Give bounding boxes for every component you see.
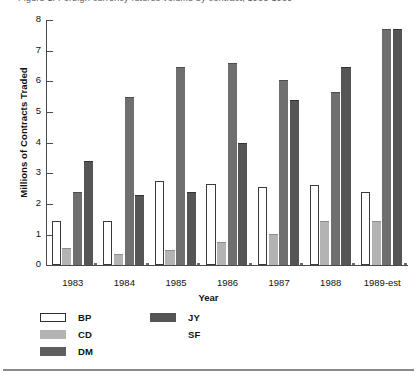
x-tick-label: 1984 [99, 277, 151, 288]
clipped-caption-strip: Figure 1. Foreign currency futures volum… [0, 0, 417, 9]
bar-jy-1985 [187, 192, 196, 266]
bar-sf-1986 [249, 263, 252, 265]
bar-group [305, 20, 357, 265]
y-tick-0: 0 [46, 265, 53, 266]
bar-cd-1988 [320, 221, 329, 265]
x-tick-labels: 1983198419851986198719881989-est [47, 277, 408, 288]
bars [202, 20, 254, 265]
bars [305, 20, 357, 265]
bar-dm-1988 [331, 92, 340, 265]
bars [47, 20, 99, 265]
caption-text: Figure 1. Foreign currency futures volum… [18, 0, 292, 3]
y-axis-label: Millions of Contracts Traded [18, 38, 29, 228]
legend-label: DM [78, 346, 93, 357]
bar-dm-1984 [125, 97, 134, 265]
legend-item-jy[interactable]: JY [150, 312, 201, 323]
x-axis-label: Year [0, 292, 417, 303]
bars [253, 20, 305, 265]
legend-column-1: BPCDDM [40, 312, 150, 357]
x-tick-label: 1983 [47, 277, 99, 288]
plot-area: Millions of Contracts Traded 8 7 6 5 [0, 9, 417, 299]
bar-cd-1986 [217, 242, 226, 265]
legend-label: BP [78, 312, 92, 323]
legend-swatch-icon-dm [40, 347, 66, 356]
bar-sf-1989-est [404, 263, 407, 265]
bar-bp-1985 [155, 181, 164, 265]
bar-sf-1985 [197, 263, 200, 265]
x-tick-label: 1985 [150, 277, 202, 288]
bar-dm-1989-est [382, 29, 391, 265]
bar-jy-1987 [290, 100, 299, 265]
bar-cd-1989-est [372, 221, 381, 265]
bar-cd-1984 [114, 254, 123, 265]
bar-sf-1988 [352, 263, 355, 265]
bar-sf-1984 [146, 263, 149, 265]
bars [150, 20, 202, 265]
x-tick-label: 1988 [305, 277, 357, 288]
bar-jy-1984 [135, 195, 144, 265]
bars [99, 20, 151, 265]
legend-item-cd[interactable]: CD [40, 329, 150, 340]
x-tick-label: 1986 [202, 277, 254, 288]
bar-jy-1988 [341, 67, 350, 265]
legend-swatch-icon-bp [40, 313, 66, 322]
bar-bp-1989-est [361, 192, 370, 266]
x-axis-line [46, 265, 408, 266]
bars [356, 20, 408, 265]
legend-swatch-icon-jy [150, 313, 176, 322]
legend-item-sf[interactable]: SF [150, 329, 201, 340]
bar-sf-1987 [300, 263, 303, 265]
bar-dm-1985 [176, 67, 185, 265]
bar-cd-1985 [165, 250, 174, 265]
bar-groups [47, 20, 408, 265]
bar-dm-1986 [228, 63, 237, 265]
legend-label: CD [78, 329, 92, 340]
bar-group [99, 20, 151, 265]
legend-swatch-icon-sf [150, 330, 176, 339]
legend-label: SF [188, 329, 201, 340]
bar-jy-1983 [84, 161, 93, 265]
legend-label: JY [188, 312, 200, 323]
bar-group [150, 20, 202, 265]
bar-jy-1989-est [393, 29, 402, 265]
legend-item-bp[interactable]: BP [40, 312, 150, 323]
x-tick-label: 1987 [253, 277, 305, 288]
bar-bp-1986 [206, 184, 215, 265]
bar-dm-1987 [279, 80, 288, 265]
bar-group [253, 20, 305, 265]
legend-item-dm[interactable]: DM [40, 346, 150, 357]
legend: BPCDDM JYSF [40, 312, 340, 357]
bar-group [47, 20, 99, 265]
figure-container: Figure 1. Foreign currency futures volum… [0, 0, 417, 376]
axes: 8 7 6 5 4 3 2 [46, 20, 408, 266]
bottom-rule [3, 369, 414, 371]
bar-jy-1986 [238, 143, 247, 266]
bar-bp-1983 [52, 221, 61, 265]
x-tick-label: 1989-est [356, 277, 408, 288]
bar-cd-1983 [62, 248, 71, 265]
bar-group [202, 20, 254, 265]
bar-cd-1987 [269, 234, 278, 265]
legend-column-2: JYSF [150, 312, 201, 357]
bar-bp-1988 [310, 185, 319, 265]
bar-bp-1987 [258, 187, 267, 265]
bar-sf-1983 [94, 263, 97, 265]
bar-bp-1984 [103, 221, 112, 265]
bar-dm-1983 [73, 192, 82, 266]
bar-group [356, 20, 408, 265]
legend-swatch-icon-cd [40, 330, 66, 339]
